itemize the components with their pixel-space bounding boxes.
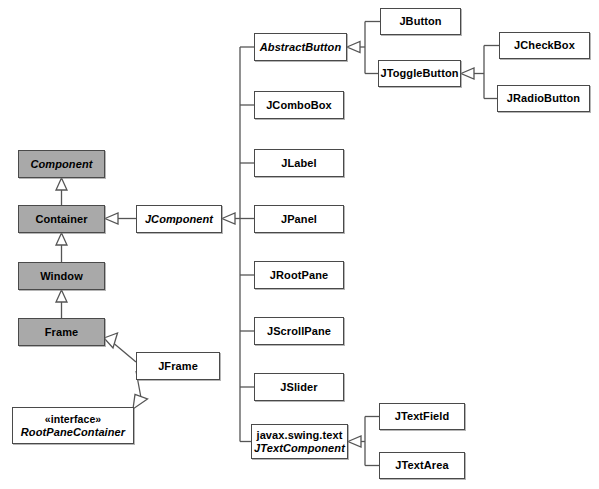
class-box-jtextcomponent[interactable]: javax.swing.text JTextComponent bbox=[251, 424, 348, 459]
class-label-abstractbutton: AbstractButton bbox=[260, 41, 341, 54]
class-box-jcheckbox[interactable]: JCheckBox bbox=[499, 32, 590, 59]
class-label-frame: Frame bbox=[45, 326, 79, 339]
generalization-arrow-frame bbox=[104, 333, 118, 348]
class-label-jpanel: JPanel bbox=[281, 213, 317, 226]
package-label-javax-swing-text: javax.swing.text bbox=[257, 429, 343, 442]
class-label-jcombobox: JComboBox bbox=[266, 99, 332, 112]
generalization-arrow-component bbox=[56, 178, 67, 190]
class-label-container: Container bbox=[35, 213, 87, 226]
class-label-jtextcomponent: JTextComponent bbox=[254, 442, 345, 455]
class-label-jtogglebutton: JToggleButton bbox=[380, 67, 458, 80]
class-box-jradiobutton[interactable]: JRadioButton bbox=[497, 85, 590, 112]
generalization-arrow-container-right bbox=[105, 213, 118, 224]
class-box-jslider[interactable]: JSlider bbox=[254, 373, 344, 401]
class-label-jtextarea: JTextArea bbox=[395, 459, 448, 472]
class-box-jtextarea[interactable]: JTextArea bbox=[379, 452, 465, 479]
class-box-jframe[interactable]: JFrame bbox=[136, 352, 220, 380]
class-label-rootpanecontainer: RootPaneContainer bbox=[21, 426, 125, 439]
class-box-jscrollpane[interactable]: JScrollPane bbox=[254, 317, 344, 345]
class-label-jtextfield: JTextField bbox=[395, 410, 450, 423]
class-box-jbutton[interactable]: JButton bbox=[380, 8, 461, 35]
class-label-jrootpane: JRootPane bbox=[270, 269, 328, 282]
stereotype-interface: «interface» bbox=[45, 413, 102, 426]
class-box-abstractbutton[interactable]: AbstractButton bbox=[254, 33, 347, 61]
class-label-window: Window bbox=[40, 270, 83, 283]
generalization-arrow-container bbox=[56, 233, 67, 245]
class-box-jtogglebutton[interactable]: JToggleButton bbox=[378, 60, 461, 87]
class-box-jcomponent[interactable]: JComponent bbox=[136, 205, 222, 233]
class-label-jradiobutton: JRadioButton bbox=[507, 92, 580, 105]
class-box-jlabel[interactable]: JLabel bbox=[254, 149, 344, 177]
generalization-arrow-jtextcomponent bbox=[348, 436, 361, 447]
class-label-jframe: JFrame bbox=[158, 360, 198, 373]
generalization-arrow-jtogglebutton bbox=[461, 68, 474, 79]
class-label-jscrollpane: JScrollPane bbox=[267, 325, 331, 338]
class-label-jlabel: JLabel bbox=[281, 157, 316, 170]
class-box-jcombobox[interactable]: JComboBox bbox=[254, 91, 344, 119]
uml-class-diagram: Component Container Window Frame JFrame … bbox=[0, 0, 599, 489]
class-label-jbutton: JButton bbox=[399, 15, 441, 28]
generalization-arrow-abstractbutton bbox=[347, 42, 360, 53]
class-box-jpanel[interactable]: JPanel bbox=[254, 205, 344, 233]
class-label-jcheckbox: JCheckBox bbox=[514, 39, 575, 52]
class-box-jtextfield[interactable]: JTextField bbox=[379, 403, 465, 430]
class-box-container[interactable]: Container bbox=[18, 205, 105, 233]
class-label-jslider: JSlider bbox=[280, 381, 317, 394]
realization-arrow-rootpanecontainer bbox=[133, 395, 148, 410]
class-box-jrootpane[interactable]: JRootPane bbox=[254, 261, 344, 289]
class-box-frame[interactable]: Frame bbox=[18, 318, 105, 346]
interface-box-rootpanecontainer[interactable]: «interface» RootPaneContainer bbox=[12, 407, 134, 444]
generalization-arrow-window bbox=[56, 290, 67, 302]
class-box-component[interactable]: Component bbox=[18, 150, 105, 178]
class-box-window[interactable]: Window bbox=[18, 262, 105, 290]
generalization-arrow-jcomponent bbox=[222, 213, 235, 224]
class-label-jcomponent: JComponent bbox=[145, 213, 213, 226]
class-label-component: Component bbox=[30, 158, 92, 171]
